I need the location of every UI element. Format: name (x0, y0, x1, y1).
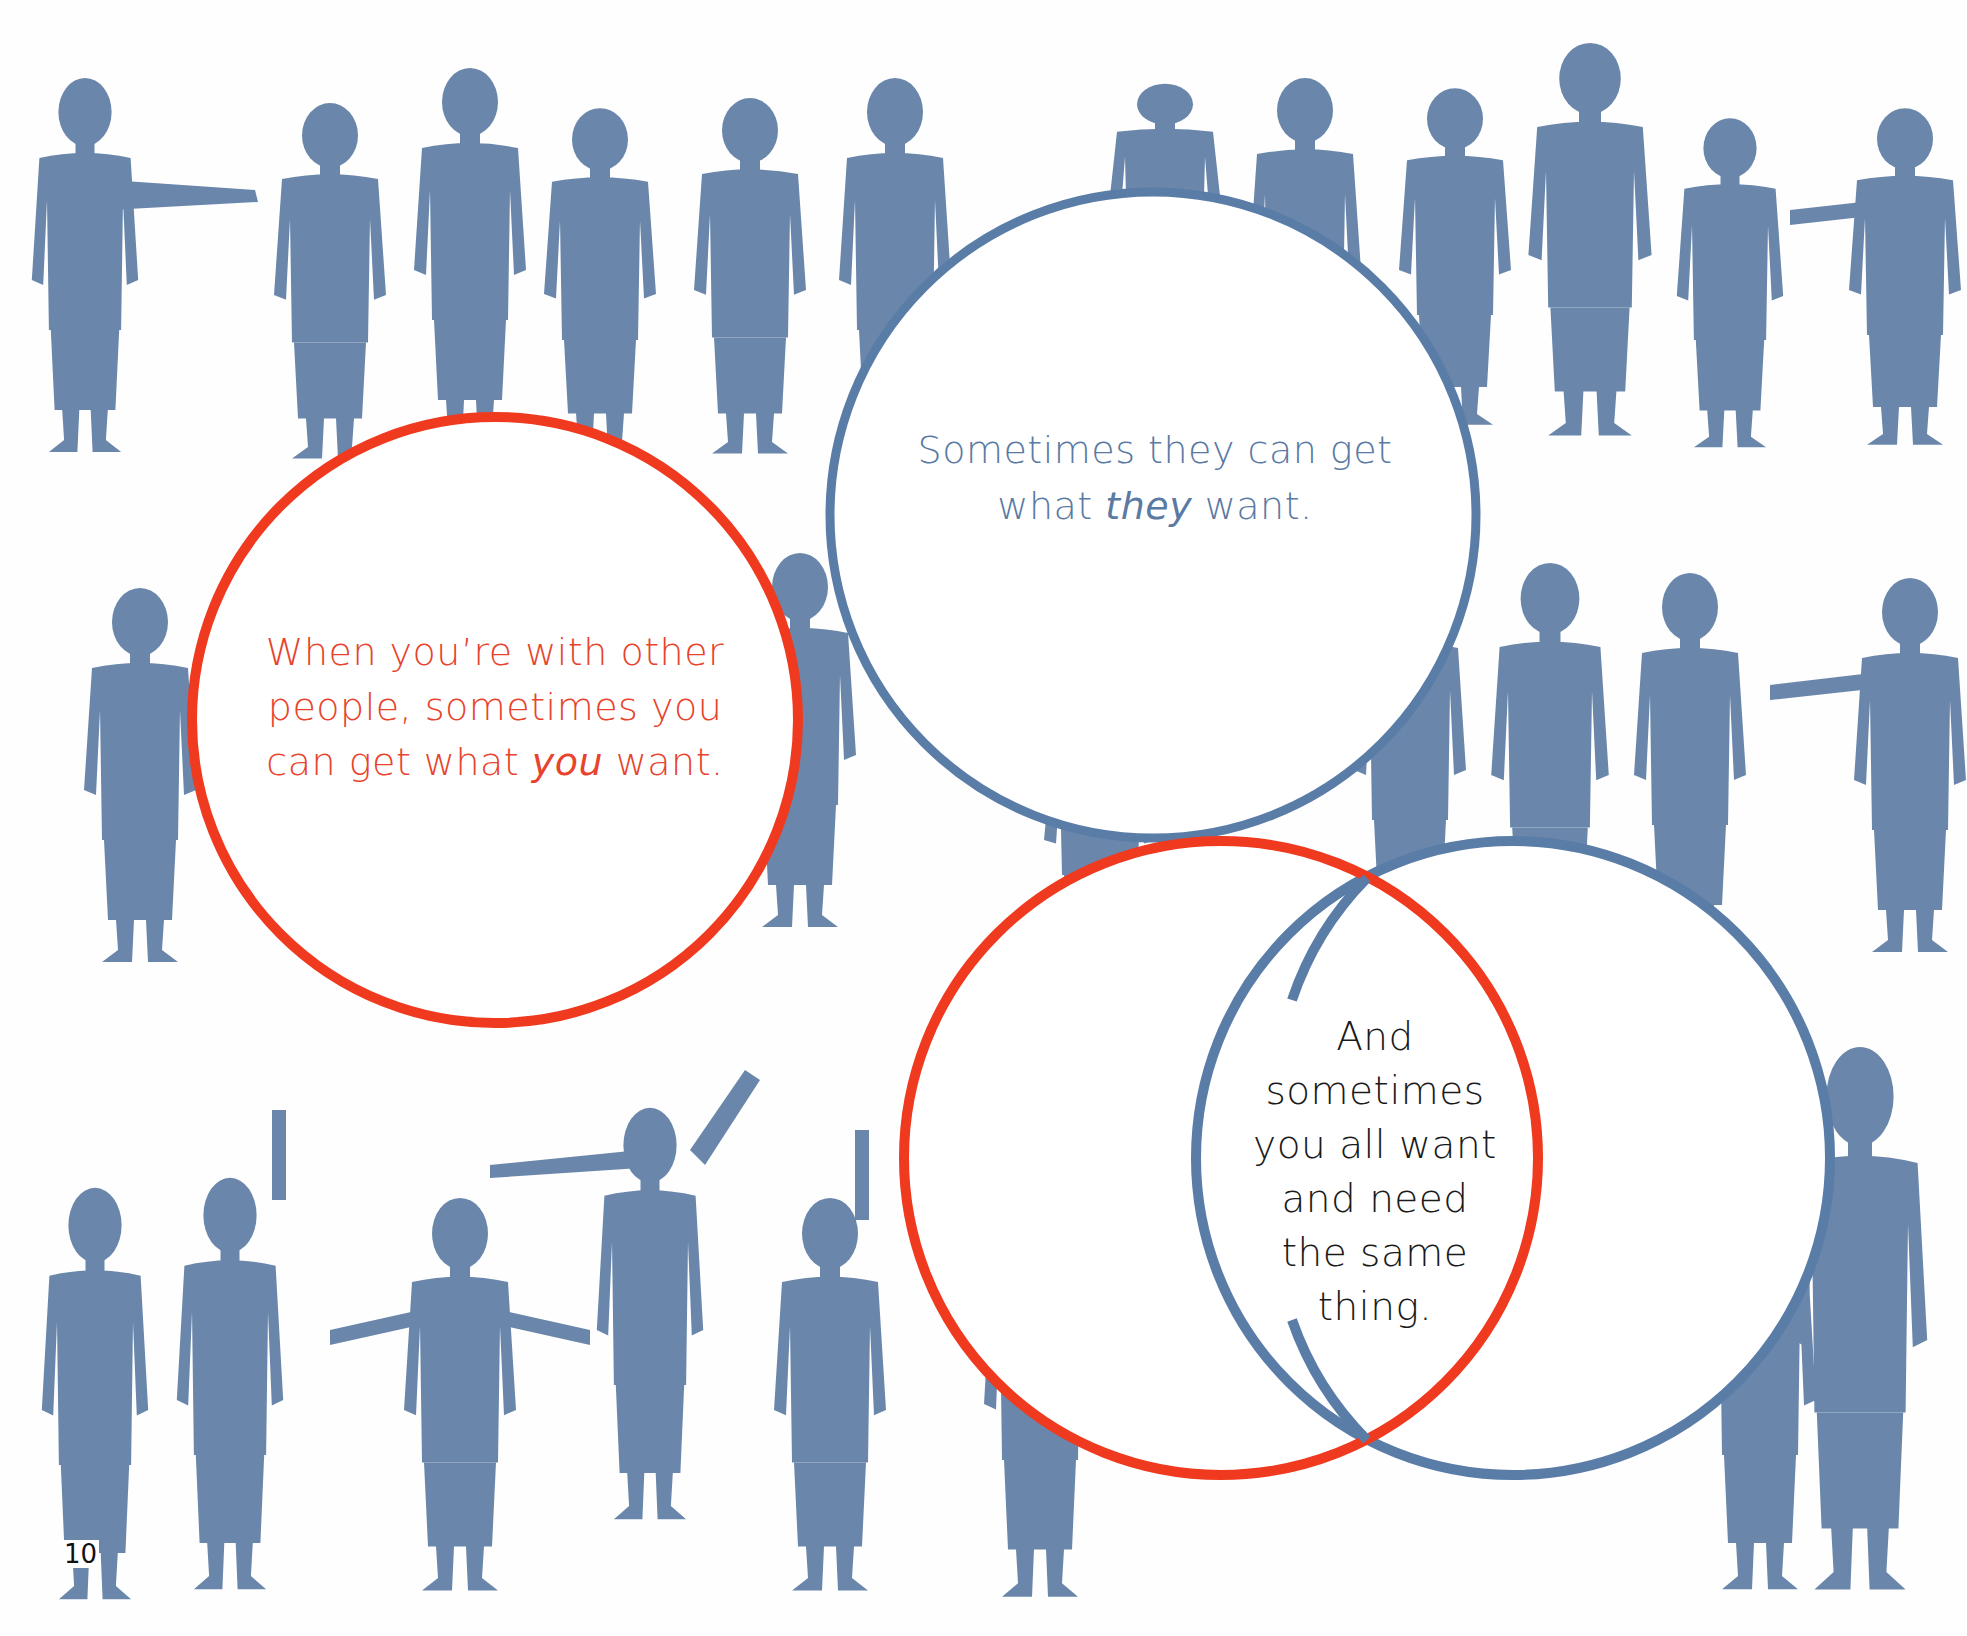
overlap-text: And sometimes you all want and need the … (1225, 1010, 1525, 1334)
page-number: 10 (62, 1540, 99, 1568)
overlap-line-4: and need (1225, 1172, 1525, 1226)
overlap-line-5: the same (1225, 1226, 1525, 1280)
overlap-line-3: you all want (1225, 1118, 1525, 1172)
you-line-1: When you’re with other (230, 625, 760, 680)
you-line-3: can get what you want. (230, 735, 760, 790)
you-line-2: people, sometimes you (230, 680, 760, 735)
they-line-1: Sometimes they can get (880, 422, 1430, 478)
emphasis-they: they (1105, 484, 1192, 528)
they-circle-text: Sometimes they can get what they want. (880, 422, 1430, 534)
venn-diagram (0, 0, 1967, 1636)
emphasis-you: you (532, 740, 603, 784)
overlap-line-1: And (1225, 1010, 1525, 1064)
overlap-line-6: thing. (1225, 1280, 1525, 1334)
overlap-line-2: sometimes (1225, 1064, 1525, 1118)
you-circle-text: When you’re with other people, sometimes… (230, 625, 760, 790)
book-page: When you’re with other people, sometimes… (0, 0, 1967, 1636)
they-line-2: what they want. (880, 478, 1430, 534)
